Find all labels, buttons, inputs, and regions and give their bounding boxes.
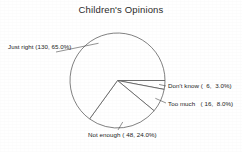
pie-label-dont-know: Don't know ( 6, 3.0%): [168, 83, 232, 89]
pie-chart-figure: Children's Opinions Just right (130, 65.…: [0, 0, 242, 152]
pie-chart-graphic: [0, 0, 242, 152]
pie-label-not-enough: Not enough ( 48, 24.0%): [88, 132, 157, 138]
pie-slice-group: [70, 33, 165, 128]
pie-label-too-much: Too much ( 16, 8.0%): [168, 101, 233, 107]
pie-label-just-right: Just right (130, 65.0%): [8, 44, 71, 50]
